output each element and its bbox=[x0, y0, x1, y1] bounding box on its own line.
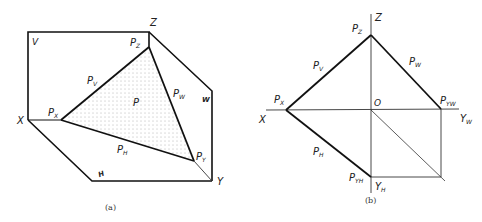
label-ph: PH bbox=[313, 146, 324, 158]
diagram-canvas: Z V PZ PV P PW W PX X PH PY H Y (a) Z PZ… bbox=[0, 0, 482, 222]
figure-a: Z V PZ PV P PW W PX X PH PY H Y (a) bbox=[16, 17, 224, 212]
figure-b: Z PZ PV PW PX O PYW X YW PH PYH YH (b) bbox=[258, 12, 473, 205]
trace-pv bbox=[286, 35, 371, 110]
label-px: PX bbox=[274, 94, 285, 106]
label-h-plane: H bbox=[97, 169, 105, 179]
label-z: Z bbox=[149, 17, 158, 28]
label-px: PX bbox=[48, 107, 59, 119]
label-x: X bbox=[258, 114, 267, 125]
x-axis bbox=[266, 109, 459, 110]
label-pyh: PYH bbox=[349, 172, 364, 184]
label-w-plane: W bbox=[202, 96, 210, 104]
label-pv: PV bbox=[87, 75, 98, 87]
label-pw: PW bbox=[173, 88, 186, 100]
caption-a: (a) bbox=[105, 203, 116, 212]
label-pyw: PYW bbox=[440, 95, 457, 107]
label-yh: YH bbox=[375, 181, 386, 193]
label-origin: O bbox=[374, 98, 381, 108]
label-pw: PW bbox=[409, 56, 422, 68]
y-axis-segment bbox=[194, 161, 212, 181]
caption-b: (b) bbox=[365, 196, 376, 205]
trace-ph bbox=[286, 110, 371, 177]
label-pz: PZ bbox=[130, 37, 141, 49]
trace-pw bbox=[371, 35, 441, 109]
label-pv: PV bbox=[313, 60, 324, 72]
label-z: Z bbox=[374, 12, 383, 23]
label-v-plane: V bbox=[32, 37, 39, 47]
label-yw: YW bbox=[460, 113, 473, 125]
label-py: PY bbox=[196, 151, 207, 163]
label-pz: PZ bbox=[352, 23, 363, 35]
label-y: Y bbox=[217, 176, 224, 187]
label-x: X bbox=[16, 115, 25, 126]
label-plane-p: P bbox=[133, 97, 140, 108]
45-degree-line bbox=[371, 110, 445, 181]
label-ph: PH bbox=[117, 144, 128, 156]
